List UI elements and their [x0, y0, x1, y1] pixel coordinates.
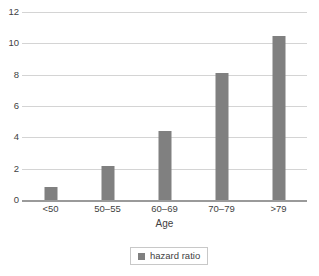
legend-label: hazard ratio [150, 251, 200, 261]
bar [44, 187, 57, 200]
bar [272, 36, 285, 201]
bar-slot [22, 12, 79, 200]
bar [101, 166, 114, 200]
x-axis-title: Age [22, 218, 307, 230]
bar-slot [193, 12, 250, 200]
y-tick-label: 6 [1, 101, 19, 111]
legend-swatch-icon [138, 253, 145, 260]
x-tick-label: >79 [250, 203, 307, 215]
x-axis: <5050–5560–6970–79>79 [22, 203, 307, 217]
x-tick-label: 50–55 [79, 203, 136, 215]
bar-chart: 024681012 <5050–5560–6970–79>79 Age haza… [0, 0, 319, 276]
y-tick-label: 12 [1, 7, 19, 17]
bar-slot [136, 12, 193, 200]
y-tick-label: 10 [1, 38, 19, 48]
y-tick-label: 8 [1, 70, 19, 80]
x-tick-label: 70–79 [193, 203, 250, 215]
y-tick-label: 2 [1, 164, 19, 174]
x-axis-line [22, 200, 307, 202]
y-tick-label: 4 [1, 132, 19, 142]
x-tick-label: <50 [22, 203, 79, 215]
chart-legend: hazard ratio [130, 247, 208, 265]
bar [215, 73, 228, 200]
bar-slot [250, 12, 307, 200]
bar [158, 131, 171, 200]
bars-layer [22, 12, 307, 200]
y-axis: 024681012 [0, 12, 19, 200]
x-tick-label: 60–69 [136, 203, 193, 215]
y-tick-label: 0 [1, 195, 19, 205]
bar-slot [79, 12, 136, 200]
